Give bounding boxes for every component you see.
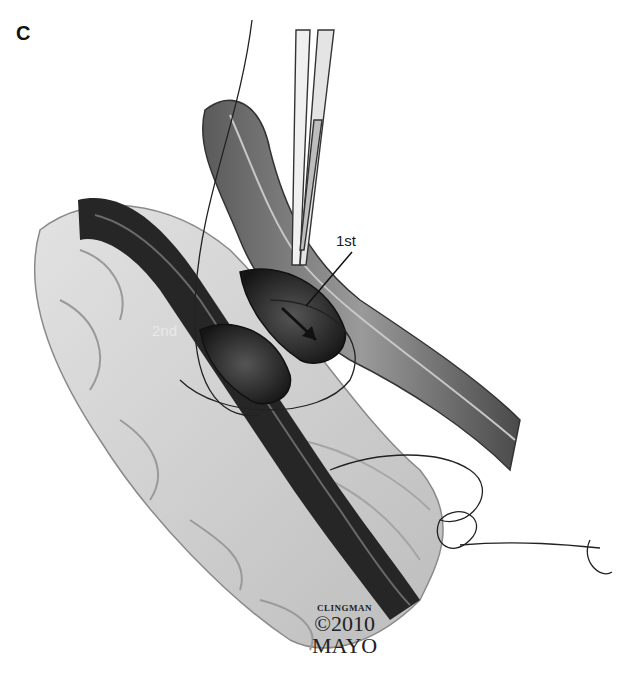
label-second-suture: 2nd	[152, 322, 177, 339]
illustration-artwork	[0, 0, 626, 684]
label-first-suture: 1st	[336, 232, 356, 249]
panel-label: C	[16, 22, 30, 45]
credit-year: ©2010	[312, 613, 377, 635]
forceps-instrument	[292, 30, 334, 265]
surgical-illustration: C 1st 2nd CLINGMAN ©2010 MAYO	[0, 0, 626, 684]
copyright-credit: CLINGMAN ©2010 MAYO	[312, 604, 377, 657]
credit-institution: MAYO	[312, 635, 377, 657]
